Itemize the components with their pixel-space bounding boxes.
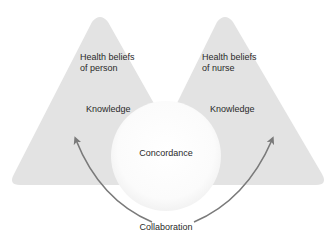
left-health-beliefs-label: Health beliefs of person xyxy=(62,52,162,74)
diagram-canvas xyxy=(0,0,333,245)
collaboration-label: Collaboration xyxy=(126,222,206,233)
left-knowledge-label: Knowledge xyxy=(86,104,131,115)
right-health-beliefs-label: Health beliefs of nurse xyxy=(202,52,257,74)
right-knowledge-label: Knowledge xyxy=(210,104,255,115)
concordance-label: Concordance xyxy=(130,148,202,159)
